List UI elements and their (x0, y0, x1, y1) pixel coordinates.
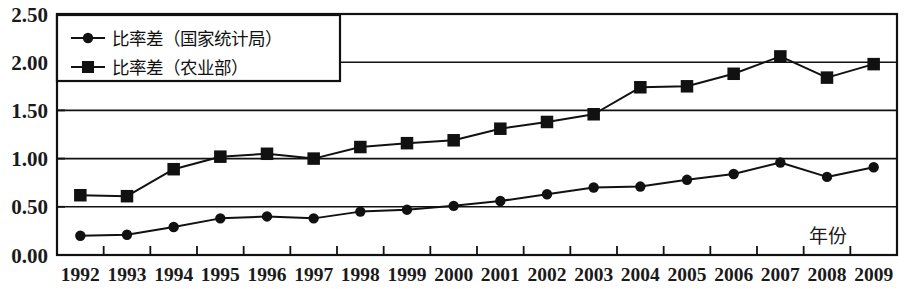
y-tick-label: 0.00 (11, 244, 48, 268)
data-point-marker (587, 108, 600, 121)
data-point-marker (354, 141, 367, 154)
data-point-marker (448, 201, 458, 211)
data-point-marker (168, 222, 178, 232)
x-tick-label: 2003 (574, 264, 613, 285)
legend-marker-square (82, 61, 94, 73)
x-tick-label: 2006 (714, 264, 753, 285)
y-axis-tick-labels: 0.000.501.001.502.002.50 (11, 3, 48, 268)
data-point-marker (541, 116, 554, 129)
data-point-marker (215, 213, 225, 223)
data-point-marker (635, 181, 645, 191)
x-tick-label: 1994 (154, 264, 193, 285)
x-tick-label: 1999 (388, 264, 427, 285)
y-tick-label: 1.00 (11, 147, 48, 171)
data-point-marker (542, 189, 552, 199)
data-point-marker (355, 206, 365, 216)
data-point-marker (495, 196, 505, 206)
data-point-marker (728, 169, 738, 179)
legend-label-2: 比率差（农业部） (112, 58, 248, 78)
data-point-marker (634, 81, 647, 94)
data-point-marker (681, 80, 694, 93)
data-point-marker (821, 71, 834, 84)
x-tick-label: 1996 (248, 264, 287, 285)
x-tick-label: 2009 (854, 264, 893, 285)
data-point-marker (774, 50, 787, 63)
data-point-marker (588, 182, 598, 192)
x-tick-label: 2001 (481, 264, 520, 285)
series-line-1 (80, 162, 873, 235)
x-axis-title: 年份 (809, 225, 847, 247)
x-axis-tick-labels: 1992199319941995199619971998199920002001… (61, 264, 894, 285)
y-tick-label: 2.50 (11, 3, 48, 27)
data-point-marker (822, 172, 832, 182)
data-point-marker (727, 68, 740, 81)
data-point-marker (121, 190, 134, 203)
legend: 比率差（国家统计局）比率差（农业部） (57, 15, 340, 81)
y-tick-label: 1.50 (11, 99, 48, 123)
data-point-marker (401, 137, 414, 150)
data-point-marker (74, 189, 87, 202)
x-tick-label: 1998 (341, 264, 380, 285)
data-point-marker (868, 162, 878, 172)
x-tick-label: 1995 (201, 264, 240, 285)
x-tick-label: 2005 (668, 264, 707, 285)
data-point-marker (261, 148, 274, 161)
data-point-marker (494, 122, 507, 135)
line-chart: 0.000.501.001.502.002.50 199219931994199… (0, 0, 910, 289)
data-point-marker (262, 211, 272, 221)
data-point-marker (214, 150, 227, 163)
x-tick-label: 2004 (621, 264, 660, 285)
data-point-marker (402, 204, 412, 214)
data-point-marker (122, 230, 132, 240)
x-tick-label: 2000 (434, 264, 473, 285)
y-tick-label: 2.00 (11, 51, 48, 75)
legend-label-1: 比率差（国家统计局） (112, 29, 282, 49)
y-tick-label: 0.50 (11, 195, 48, 219)
data-point-marker (775, 157, 785, 167)
x-tick-label: 2002 (528, 264, 567, 285)
data-point-marker (307, 152, 320, 165)
x-tick-label: 2007 (761, 264, 800, 285)
data-point-marker (75, 231, 85, 241)
x-tick-label: 1992 (61, 264, 100, 285)
data-point-marker (447, 134, 460, 147)
x-tick-label: 1997 (294, 264, 333, 285)
data-point-marker (867, 58, 880, 71)
x-tick-label: 2008 (808, 264, 847, 285)
data-point-marker (682, 175, 692, 185)
data-point-marker (308, 213, 318, 223)
data-point-marker (167, 163, 180, 176)
chart-canvas: 0.000.501.001.502.002.50 199219931994199… (0, 0, 910, 289)
x-tick-label: 1993 (108, 264, 147, 285)
legend-marker-circle (83, 33, 93, 43)
